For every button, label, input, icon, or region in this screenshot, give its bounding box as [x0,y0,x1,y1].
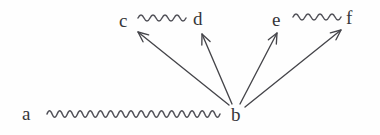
node-label-e: e [272,10,280,29]
squiggly-edge-e-f [293,14,341,20]
node-label-f: f [346,8,352,27]
arrow-shaft-b-to-e [240,33,277,104]
squiggly-edge-c-d [138,15,186,21]
node-label-b: b [231,105,241,124]
arrow-group [138,30,341,107]
diagram-svg [0,0,380,135]
arrow-shaft-b-to-d [202,34,232,104]
arrow-shaft-b-to-c [138,32,229,105]
squiggly-edge-a-b [47,111,220,117]
node-label-c: c [119,11,127,30]
arrow-shaft-b-to-f [245,30,341,107]
node-label-a: a [22,104,30,123]
figure-canvas: a b c d e f [0,0,380,135]
node-label-d: d [193,9,203,28]
